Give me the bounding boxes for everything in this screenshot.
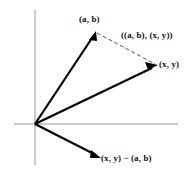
label-vector-difference: (x, y) − (a, b) <box>101 154 152 163</box>
vector-diagram-canvas <box>0 0 193 177</box>
vector-difference-arrowhead <box>90 150 101 158</box>
vector-diagram-figure: (a, b) ((a, b), (x, y)) (x, y) (x, y) − … <box>0 0 193 177</box>
label-point-xy: (x, y) <box>159 60 179 69</box>
vector-difference-shaft <box>35 124 96 155</box>
label-point-ab: (a, b) <box>79 15 100 24</box>
vector-ab-arrowhead <box>89 31 97 41</box>
label-inner-product: ((a, b), (x, y)) <box>121 31 173 40</box>
vectors-group <box>35 31 158 158</box>
